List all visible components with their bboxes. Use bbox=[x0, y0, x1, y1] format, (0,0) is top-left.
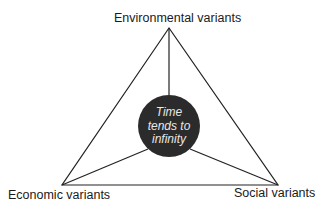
center-line-3: infinity bbox=[139, 133, 199, 147]
label-social: Social variants bbox=[234, 186, 315, 200]
diagram: Environmental variants Economic variants… bbox=[0, 0, 320, 212]
center-line-1: Time bbox=[139, 106, 199, 120]
center-line-2: tends to bbox=[139, 120, 199, 134]
label-economic: Economic variants bbox=[8, 188, 110, 202]
center-label: Time tends to infinity bbox=[139, 106, 199, 147]
label-environmental: Environmental variants bbox=[114, 11, 241, 25]
